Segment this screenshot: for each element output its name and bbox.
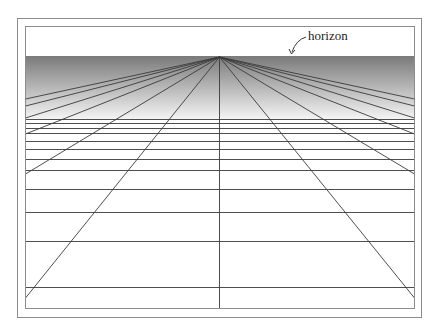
horizon-label: horizon — [308, 28, 348, 43]
perspective-diagram: horizon — [0, 0, 438, 332]
horizon-gradient-band — [26, 56, 415, 119]
